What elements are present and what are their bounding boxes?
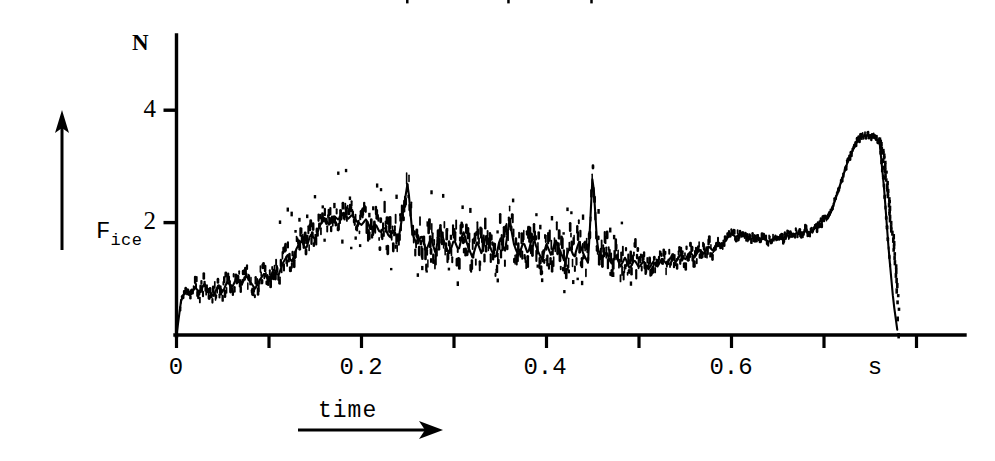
x-tick-label-0.4: 0.4 xyxy=(500,356,590,380)
trace-sample xyxy=(287,208,289,212)
trace-sample xyxy=(469,208,471,213)
trace-sample xyxy=(479,261,481,265)
x-tick-label-0.2: 0.2 xyxy=(316,356,406,380)
trace-sample xyxy=(290,212,292,217)
force-trace-spikes xyxy=(406,0,900,338)
trace-sample xyxy=(442,194,444,198)
trace-sample xyxy=(612,272,614,277)
trace-sample xyxy=(337,172,339,175)
trace-sample xyxy=(394,245,396,249)
x-axis-unit-label: s xyxy=(855,356,895,380)
trace-sample xyxy=(421,266,423,270)
trace-sample xyxy=(461,205,463,209)
trace-sample xyxy=(294,230,296,233)
trace-sample xyxy=(527,226,529,231)
trace-sample xyxy=(537,264,539,267)
trace-falloff-sample xyxy=(888,200,891,203)
y-axis-label: Fice xyxy=(96,218,143,250)
trace-sample xyxy=(581,281,583,285)
trace-falloff-sample xyxy=(895,288,898,293)
trace-sample xyxy=(349,196,351,200)
x-tick-label-0: 0 xyxy=(156,356,196,380)
trace-sample xyxy=(323,239,325,242)
trace-sample xyxy=(426,270,428,272)
trace-sample xyxy=(426,221,428,226)
trace-sample xyxy=(512,199,514,203)
trace-sample xyxy=(314,195,316,198)
figure-container: N 4 2 Fice 0 0.2 0.4 0.6 s time xyxy=(0,0,995,461)
trace-sample xyxy=(306,214,308,218)
trace-sample xyxy=(450,235,452,240)
trace-sample xyxy=(539,225,541,230)
trace-sample xyxy=(496,230,498,233)
trace-sample xyxy=(372,206,374,210)
trace-sample xyxy=(448,268,450,271)
trace-sample xyxy=(572,280,574,284)
x-axis-label: time xyxy=(318,398,377,424)
trace-falloff-sample xyxy=(897,294,900,297)
trace-sample xyxy=(630,281,632,285)
trace-sample xyxy=(368,213,370,218)
trace-sample xyxy=(457,281,459,286)
trace-sample xyxy=(333,203,335,208)
trace-sample xyxy=(380,188,382,191)
trace-falloff-sample xyxy=(890,221,893,224)
trace-falloff-sample xyxy=(889,215,892,218)
trace-sample xyxy=(568,269,570,273)
trace-sample xyxy=(279,220,281,224)
trace-sample xyxy=(570,211,572,214)
y-axis-label-subscript: ice xyxy=(110,231,142,250)
trace-sample xyxy=(359,244,361,247)
trace-falloff-sample xyxy=(896,283,899,288)
trace-spike-sample xyxy=(406,0,409,3)
trace-falloff-sample xyxy=(895,269,898,274)
trace-falloff-sample xyxy=(895,264,898,269)
trace-falloff-sample xyxy=(896,300,899,304)
y-tick-label-4: 4 xyxy=(126,96,156,121)
trace-sample xyxy=(298,218,300,222)
trace-sample xyxy=(430,258,432,263)
axes-group xyxy=(164,35,966,348)
trace-sample xyxy=(376,183,378,187)
trace-sample xyxy=(497,278,499,282)
trace-spike-sample xyxy=(507,0,510,3)
trace-sample xyxy=(350,247,352,250)
trace-sample xyxy=(446,228,448,231)
trace-sample xyxy=(354,236,356,239)
x-tick-label-0.6: 0.6 xyxy=(686,356,776,380)
trace-falloff-sample xyxy=(897,333,900,338)
x-tick-marks xyxy=(177,336,917,348)
trace-sample xyxy=(417,273,419,277)
trace-sample xyxy=(582,214,584,219)
trace-sample xyxy=(341,240,343,244)
trace-falloff-sample xyxy=(895,273,898,278)
trace-sample xyxy=(609,228,611,233)
trace-sample xyxy=(597,209,599,214)
trace-sample xyxy=(576,278,578,281)
trace-sample xyxy=(345,169,347,172)
trace-sample xyxy=(613,235,615,239)
trace-sample xyxy=(551,216,553,220)
trace-sample xyxy=(395,195,397,199)
data-series-group xyxy=(177,0,901,338)
trace-falloff-sample xyxy=(898,308,901,311)
trace-sample xyxy=(621,222,623,225)
trace-sample xyxy=(430,190,432,194)
trace-sample xyxy=(545,258,547,261)
trace-sample xyxy=(399,213,401,215)
y-axis-label-main: F xyxy=(96,218,110,245)
trace-sample xyxy=(386,245,388,250)
trace-sample xyxy=(535,213,537,216)
trace-falloff-sample xyxy=(893,252,896,256)
trace-falloff-sample xyxy=(893,256,896,260)
trace-sample xyxy=(390,268,392,270)
trace-spike-sample xyxy=(590,0,593,3)
trace-falloff-sample xyxy=(892,248,895,251)
trace-sample xyxy=(541,278,543,282)
trace-falloff-sample xyxy=(895,278,898,283)
y-axis-unit-label: N xyxy=(132,31,149,54)
force-trace-noise xyxy=(180,132,890,310)
trace-falloff-sample xyxy=(896,317,899,322)
trace-sample xyxy=(562,232,564,235)
trace-sample xyxy=(322,205,324,208)
